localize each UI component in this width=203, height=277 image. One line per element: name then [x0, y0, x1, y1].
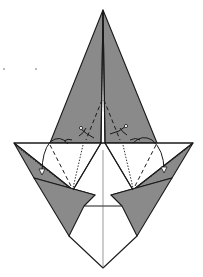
top-flap-right: [103, 10, 157, 143]
scan-dot: [3, 68, 5, 70]
scan-dot: [35, 68, 37, 70]
arrowhead-upper-right-icon: [124, 124, 127, 127]
top-flap-left: [50, 10, 103, 143]
arrowhead-upper-left-icon: [79, 126, 82, 129]
origami-diagram: [0, 0, 203, 277]
